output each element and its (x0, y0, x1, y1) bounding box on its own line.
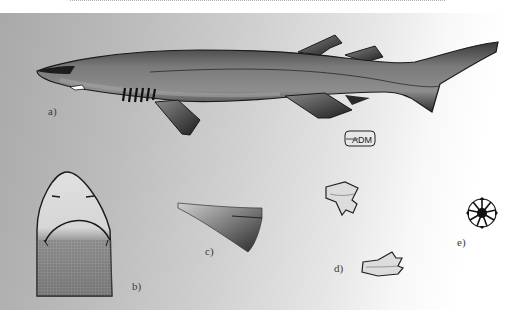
panel-label-e: e) (457, 236, 466, 249)
dermal-denticle (466, 197, 498, 229)
scanned-page: a) ADM b) c) (0, 0, 525, 320)
signature-text: ADM (352, 135, 372, 145)
shark-lateral-view (37, 35, 498, 135)
artist-signature: ADM (345, 131, 375, 146)
shark-head-ventral-view (37, 172, 112, 296)
panel-label-c: c) (205, 245, 214, 258)
pectoral-fin-detail (178, 203, 262, 252)
panel-label-a: a) (48, 105, 57, 118)
panel-label-b: b) (132, 280, 142, 293)
figure-illustrations: a) ADM b) c) (0, 0, 525, 320)
panel-label-d: d) (334, 262, 344, 275)
